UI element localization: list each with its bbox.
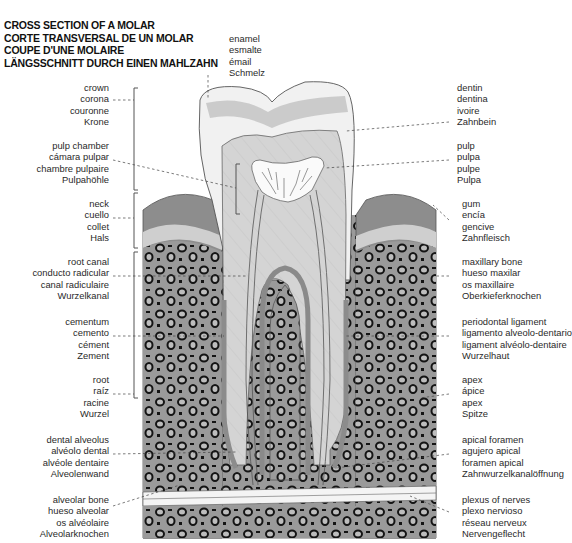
label-de: Zement: [65, 350, 109, 361]
label-en: apex: [462, 374, 488, 385]
label-en: crown: [70, 82, 109, 93]
crown-bracket: [134, 88, 138, 190]
label-en: pulp chamber: [37, 140, 109, 151]
label-de: Nervengeflecht: [462, 528, 530, 539]
label-fr: gencive: [462, 221, 510, 232]
label-en: gum: [462, 198, 510, 209]
label-dentin: dentin dentina ivoire Zahnbein: [457, 82, 496, 127]
label-fr: os maxillaire: [462, 279, 541, 290]
label-en: pulp: [457, 140, 481, 151]
inter-radicular-septum: [270, 285, 300, 480]
label-fr: racine: [80, 397, 109, 408]
label-fr: alvéole dentaire: [43, 457, 109, 468]
label-fr: chambre pulpaire: [37, 163, 109, 174]
label-en: enamel: [229, 33, 265, 44]
label-alveolar-bone: alveolar bone hueso alveolar os alvéolai…: [40, 494, 109, 539]
label-de: Wurzelkanal: [32, 290, 109, 301]
label-fr: canal radiculaire: [32, 279, 109, 290]
label-es: pulpa: [457, 151, 481, 162]
label-de: Alveolenwand: [43, 468, 109, 479]
label-de: Spitze: [462, 408, 488, 419]
label-de: Pulpa: [457, 174, 481, 185]
label-en: neck: [85, 198, 110, 209]
label-de: Krone: [70, 116, 109, 127]
label-fr: cément: [65, 339, 109, 350]
label-es: conducto radicular: [32, 267, 109, 278]
label-de: Wurzelhaut: [462, 350, 572, 361]
label-es: hueso maxilar: [462, 267, 541, 278]
label-apical-foramen: apical foramen agujero apical foramen ap…: [462, 434, 564, 479]
label-root: root raíz racine Wurzel: [80, 374, 109, 419]
label-crown: crown corona couronne Krone: [70, 82, 109, 127]
label-en: alveolar bone: [40, 494, 109, 505]
label-pulp-chamber: pulp chamber cámara pulpar chambre pulpa…: [37, 140, 109, 185]
label-enamel: enamel esmalte émail Schmelz: [229, 33, 265, 78]
label-en: dental alveolus: [43, 434, 109, 445]
label-es: esmalte: [229, 44, 265, 55]
label-neck: neck cuello collet Hals: [85, 198, 110, 243]
label-fr: émail: [229, 56, 265, 67]
label-en: plexus of nerves: [462, 494, 530, 505]
label-fr: ligament alvéolo-dentaire: [462, 339, 572, 350]
root-bracket: [134, 252, 138, 398]
label-es: corona: [70, 93, 109, 104]
leader-dentin: [346, 122, 449, 131]
label-fr: ivoire: [457, 105, 496, 116]
label-de: Zahnfleisch: [462, 232, 510, 243]
label-en: dentin: [457, 82, 496, 93]
label-maxillary-bone: maxillary bone hueso maxilar os maxillai…: [462, 256, 541, 301]
neck-bracket: [134, 193, 138, 248]
label-de: Zahnwurzelkanalöffnung: [462, 468, 564, 479]
label-fr: os alvéolaire: [40, 517, 109, 528]
label-de: Zahnbein: [457, 116, 496, 127]
label-periodontal-ligament: periodontal ligament ligamento alveolo-d…: [462, 316, 572, 361]
label-en: root: [80, 374, 109, 385]
label-dental-alveolus: dental alveolus alvéolo dental alvéole d…: [43, 434, 109, 479]
label-en: maxillary bone: [462, 256, 541, 267]
label-es: plexo nervioso: [462, 505, 530, 516]
label-fr: foramen apical: [462, 457, 564, 468]
label-es: alvéolo dental: [43, 445, 109, 456]
label-es: ápice: [462, 385, 488, 396]
label-root-canal: root canal conducto radicular canal radi…: [32, 256, 109, 301]
label-es: dentina: [457, 93, 496, 104]
label-fr: réseau nerveux: [462, 517, 530, 528]
label-de: Schmelz: [229, 67, 265, 78]
label-fr: apex: [462, 397, 488, 408]
label-fr: collet: [85, 221, 110, 232]
label-es: encía: [462, 209, 510, 220]
label-de: Alveolarknochen: [40, 528, 109, 539]
label-pulp: pulp pulpa pulpe Pulpa: [457, 140, 481, 185]
label-de: Wurzel: [80, 408, 109, 419]
label-es: cámara pulpar: [37, 151, 109, 162]
label-apex: apex ápice apex Spitze: [462, 374, 488, 419]
label-es: cuello: [85, 209, 110, 220]
label-fr: couronne: [70, 105, 109, 116]
label-de: Pulpahöhle: [37, 174, 109, 185]
label-fr: pulpe: [457, 163, 481, 174]
label-es: agujero apical: [462, 445, 564, 456]
label-de: Oberkieferknochen: [462, 290, 541, 301]
label-en: root canal: [32, 256, 109, 267]
label-es: hueso alveolar: [40, 505, 109, 516]
label-es: cemento: [65, 327, 109, 338]
label-cementum: cementum cemento cément Zement: [65, 316, 109, 361]
label-en: periodontal ligament: [462, 316, 572, 327]
label-de: Hals: [85, 232, 110, 243]
label-es: raíz: [80, 385, 109, 396]
label-en: cementum: [65, 316, 109, 327]
label-plexus-of-nerves: plexus of nerves plexo nervioso réseau n…: [462, 494, 530, 539]
label-en: apical foramen: [462, 434, 564, 445]
label-es: ligamento alveolo-dentario: [462, 327, 572, 338]
label-gum: gum encía gencive Zahnfleisch: [462, 198, 510, 243]
